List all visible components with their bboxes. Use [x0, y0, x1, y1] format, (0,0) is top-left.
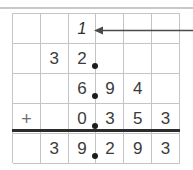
table-row-carry: 1 [13, 14, 180, 44]
worksheet-canvas: 1 3 2 6 9 4 + 0 3 5 [0, 0, 193, 170]
cell-r2c6 [152, 44, 180, 74]
cell-r2c1 [13, 44, 41, 74]
cell-r2c4 [96, 44, 124, 74]
addition-grid: 1 3 2 6 9 4 + 0 3 5 [12, 13, 180, 163]
cell-r3c1 [13, 74, 41, 104]
cell-r3c4: 9 [96, 74, 124, 104]
sum-divider-rule [12, 129, 180, 132]
cell-r3c2 [41, 74, 69, 104]
cell-r3c6 [152, 74, 180, 104]
cell-r1c1 [13, 14, 41, 44]
cell-r5c6: 3 [152, 134, 180, 164]
cell-r2c2: 3 [41, 44, 69, 74]
cell-r5c5: 9 [124, 134, 152, 164]
table-row-sum: 3 9 2 9 3 [13, 134, 180, 164]
cell-r2c5 [124, 44, 152, 74]
cell-r1c2 [41, 14, 69, 44]
cell-r1c5 [124, 14, 152, 44]
cell-r3c3: 6 [69, 74, 97, 104]
cell-r5c4: 2 [96, 134, 124, 164]
cell-r5c2: 3 [41, 134, 69, 164]
cell-r5c3: 9 [69, 134, 97, 164]
cell-r1c4 [96, 14, 124, 44]
table-row-addend-1: 3 2 [13, 44, 180, 74]
cell-r1c6 [152, 14, 180, 44]
cell-r5c1 [13, 134, 41, 164]
cell-r2c3: 2 [69, 44, 97, 74]
cell-r3c5: 4 [124, 74, 152, 104]
top-divider-rule [0, 7, 193, 9]
cell-r1c3-carry-digit: 1 [69, 14, 97, 44]
table-row-addend-2: 6 9 4 [13, 74, 180, 104]
